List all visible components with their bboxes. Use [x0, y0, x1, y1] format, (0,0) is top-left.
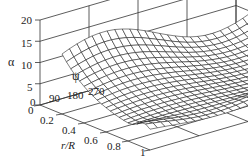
z-tick-10: 10: [21, 59, 33, 71]
psi-tick-180: 180: [67, 89, 84, 101]
psi-tick-90: 90: [49, 92, 61, 104]
r-axis-label: r/R: [61, 139, 75, 151]
z-tick-15: 15: [21, 37, 33, 49]
r-tick-0.8: 0.8: [107, 140, 121, 152]
surface-plot: 20 15 10 5 0 α ψ 90 180 270 0 0.2 0.4 0.…: [0, 0, 248, 166]
r-tick-0: 0: [28, 104, 34, 116]
psi-tick-270: 270: [88, 85, 105, 97]
psi-axis-label: ψ: [72, 69, 80, 83]
plot-canvas: 20 15 10 5 0 α ψ 90 180 270 0 0.2 0.4 0.…: [0, 0, 248, 166]
z-tick-20: 20: [21, 14, 33, 26]
z-tick-5: 5: [27, 81, 33, 93]
r-tick-1: 1: [140, 146, 146, 158]
r-tick-0.6: 0.6: [84, 134, 98, 146]
r-tick-0.4: 0.4: [62, 124, 76, 136]
wireframe-surface: [62, 7, 248, 129]
z-axis-label: α: [8, 55, 15, 69]
r-tick-0.2: 0.2: [40, 114, 54, 126]
